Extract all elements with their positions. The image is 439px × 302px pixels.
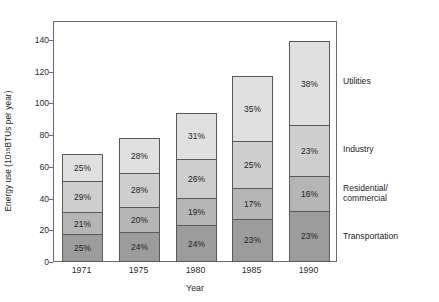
x-axis-tick-label: 1985 — [231, 265, 272, 275]
x-axis-tick-label: 1980 — [175, 265, 216, 275]
y-axis-tick-mark — [49, 167, 53, 168]
legend-item-label-line2: commercial — [343, 193, 388, 204]
y-axis-tick-mark — [49, 199, 53, 200]
bar-segment-utilities[interactable]: 25% — [62, 154, 103, 182]
bar-segment-percent-label: 23% — [301, 231, 318, 241]
bar-segment-industry[interactable]: 29% — [62, 181, 103, 213]
y-axis-tick-label: 80 — [4, 130, 49, 140]
legend-item-label: Utilities — [343, 76, 371, 87]
bar-segment-transportation[interactable]: 24% — [176, 225, 217, 262]
bar-segment-transportation[interactable]: 25% — [62, 234, 103, 262]
bar-segment-percent-label: 23% — [301, 146, 318, 156]
bar-segment-residential-commercial[interactable]: 16% — [289, 176, 330, 212]
bar-segment-percent-label: 24% — [131, 242, 148, 252]
y-axis-tick-label: 100 — [4, 98, 49, 108]
legend-item-label: Residential/ — [343, 183, 388, 194]
bar-segment-industry[interactable]: 28% — [119, 173, 160, 209]
legend-item-industry[interactable]: Industry — [343, 144, 374, 155]
bar-segment-percent-label: 28% — [131, 185, 148, 195]
y-axis-tick-mark — [49, 40, 53, 41]
bar-segment-percent-label: 17% — [244, 199, 261, 209]
y-axis-tick-label: 0 — [4, 257, 49, 267]
legend-item-residential-commercial[interactable]: Residential/commercial — [343, 183, 388, 204]
bar-segment-industry[interactable]: 25% — [232, 141, 273, 188]
bar-segment-residential-commercial[interactable]: 17% — [232, 188, 273, 220]
bar-segment-percent-label: 21% — [74, 219, 91, 229]
bar-segment-percent-label: 23% — [244, 235, 261, 245]
bar-segment-percent-label: 38% — [301, 79, 318, 89]
stacked-bar-1985[interactable]: 35%25%17%23% — [232, 76, 273, 261]
stacked-bar-1980[interactable]: 31%26%19%24% — [176, 113, 217, 261]
bar-segment-percent-label: 31% — [188, 131, 205, 141]
plot-area: 25%29%21%25%28%28%20%24%31%26%19%24%35%2… — [53, 21, 337, 262]
bar-segment-percent-label: 26% — [188, 174, 205, 184]
bar-segment-utilities[interactable]: 35% — [232, 76, 273, 142]
x-axis-tick-group: 19711975198019851990 — [53, 265, 337, 279]
y-axis-tick-mark — [49, 262, 53, 263]
bar-segment-percent-label: 25% — [74, 243, 91, 253]
bar-segment-percent-label: 25% — [74, 163, 91, 173]
y-axis-tick-label: 140 — [4, 35, 49, 45]
legend-item-label: Transportation — [343, 231, 398, 242]
y-axis-tick-label: 20 — [4, 225, 49, 235]
x-axis-title: Year — [53, 283, 337, 293]
bar-segment-residential-commercial[interactable]: 21% — [62, 212, 103, 235]
legend: UtilitiesIndustryResidential/commercialT… — [343, 21, 439, 262]
x-axis-tick-label: 1971 — [61, 265, 102, 275]
bar-segment-utilities[interactable]: 31% — [176, 113, 217, 160]
legend-item-utilities[interactable]: Utilities — [343, 76, 371, 87]
y-axis-tick-group: 020406080100120140 — [0, 0, 49, 302]
y-axis-tick-mark — [49, 103, 53, 104]
y-axis-tick-label: 40 — [4, 194, 49, 204]
bar-segment-utilities[interactable]: 28% — [119, 138, 160, 174]
y-axis-tick-mark — [49, 230, 53, 231]
stacked-bar-1975[interactable]: 28%28%20%24% — [119, 138, 160, 261]
bar-segment-percent-label: 24% — [188, 239, 205, 249]
bar-segment-percent-label: 29% — [74, 192, 91, 202]
x-axis-tick-label: 1990 — [288, 265, 329, 275]
stacked-bar-1990[interactable]: 38%23%16%23% — [289, 41, 330, 261]
bars-layer: 25%29%21%25%28%28%20%24%31%26%19%24%35%2… — [54, 22, 336, 261]
legend-item-transportation[interactable]: Transportation — [343, 231, 398, 242]
bar-segment-transportation[interactable]: 23% — [289, 211, 330, 262]
bar-segment-percent-label: 20% — [131, 215, 148, 225]
y-axis-tick-mark — [49, 72, 53, 73]
bar-segment-utilities[interactable]: 38% — [289, 41, 330, 126]
y-axis-tick-label: 60 — [4, 162, 49, 172]
bar-segment-percent-label: 16% — [301, 189, 318, 199]
bar-segment-percent-label: 28% — [131, 151, 148, 161]
y-axis-tick-mark — [49, 135, 53, 136]
bar-segment-residential-commercial[interactable]: 20% — [119, 207, 160, 232]
bar-segment-percent-label: 35% — [244, 104, 261, 114]
bar-segment-industry[interactable]: 26% — [176, 159, 217, 199]
bar-segment-transportation[interactable]: 24% — [119, 232, 160, 262]
x-axis-tick-label: 1975 — [118, 265, 159, 275]
y-axis-tick-label: 120 — [4, 67, 49, 77]
bar-segment-industry[interactable]: 23% — [289, 125, 330, 176]
stacked-bar-1971[interactable]: 25%29%21%25% — [62, 154, 103, 261]
bar-segment-percent-label: 19% — [188, 207, 205, 217]
bar-segment-percent-label: 25% — [244, 160, 261, 170]
bar-segment-residential-commercial[interactable]: 19% — [176, 198, 217, 227]
legend-item-label: Industry — [343, 144, 374, 155]
bar-segment-transportation[interactable]: 23% — [232, 219, 273, 262]
